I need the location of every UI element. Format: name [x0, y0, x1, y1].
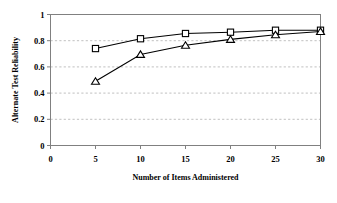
- chart-container: 00.20.40.60.81051015202530Number of Item…: [0, 0, 337, 203]
- x-axis-tick-label: 25: [271, 154, 280, 164]
- data-point-square: [227, 29, 233, 35]
- data-point-triangle: [92, 78, 100, 85]
- x-axis-tick-label: 0: [48, 154, 52, 164]
- y-axis-tick-label: 0.4: [34, 88, 45, 98]
- y-axis-title: Alternate Test Reliability: [11, 37, 20, 123]
- data-point-square: [137, 36, 143, 42]
- data-point-square: [92, 45, 98, 51]
- y-axis-tick-label: 0.2: [34, 114, 45, 124]
- x-axis-tick-label: 10: [136, 154, 145, 164]
- data-point-square: [182, 30, 188, 36]
- y-axis-tick-label: 0: [40, 141, 44, 151]
- x-axis-tick-label: 5: [93, 154, 97, 164]
- y-axis-tick-label: 1: [40, 10, 44, 20]
- series-line-square: [96, 30, 321, 48]
- y-axis-tick-label: 0.6: [34, 62, 45, 72]
- series-line-triangle: [96, 32, 321, 82]
- x-axis-tick-label: 20: [226, 154, 235, 164]
- x-axis-title: Number of Items Administered: [132, 173, 239, 182]
- reliability-line-chart: 00.20.40.60.81051015202530Number of Item…: [0, 0, 337, 203]
- x-axis-tick-label: 15: [181, 154, 190, 164]
- x-axis-tick-label: 30: [316, 154, 325, 164]
- y-axis-tick-label: 0.8: [34, 36, 45, 46]
